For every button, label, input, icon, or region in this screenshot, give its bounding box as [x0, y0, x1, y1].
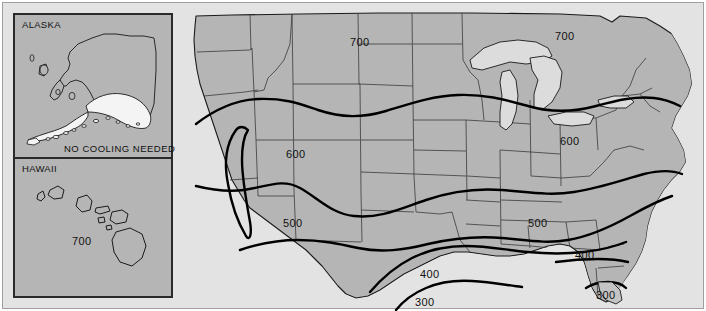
island-maui: [110, 210, 128, 224]
map-canvas: [0, 0, 706, 311]
cooling-degree-day-map: ALASKA NO COOLING NEEDED HAWAII 700 700 …: [0, 0, 706, 311]
lake-erie: [548, 112, 594, 126]
island-kahoolawe: [106, 225, 112, 230]
alaska-no-cooling-note: NO COOLING NEEDED: [64, 144, 175, 154]
inset-panel: [14, 14, 172, 297]
alaska-inset-title: ALASKA: [22, 20, 61, 30]
hawaii-inset-title: HAWAII: [22, 164, 57, 174]
island-lanai: [98, 217, 105, 223]
